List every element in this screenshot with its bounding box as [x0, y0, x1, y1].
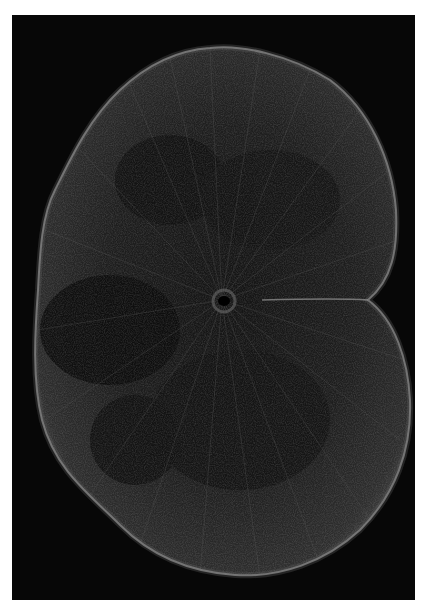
spinal-cord-section: [0, 0, 427, 613]
